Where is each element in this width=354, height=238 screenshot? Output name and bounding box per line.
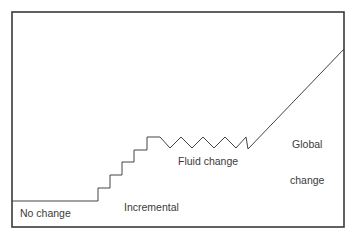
global-label-line1: Global [290, 138, 324, 150]
global-change-label: Global change [290, 114, 324, 198]
fluid-change-label: Fluid change [178, 155, 238, 167]
incremental-label-line2: change [124, 237, 179, 238]
global-label-line2: change [290, 174, 324, 186]
incremental-label-line1: Incremental [124, 201, 179, 213]
no-change-label: No change [20, 207, 71, 219]
incremental-change-label: Incremental change [124, 177, 179, 238]
